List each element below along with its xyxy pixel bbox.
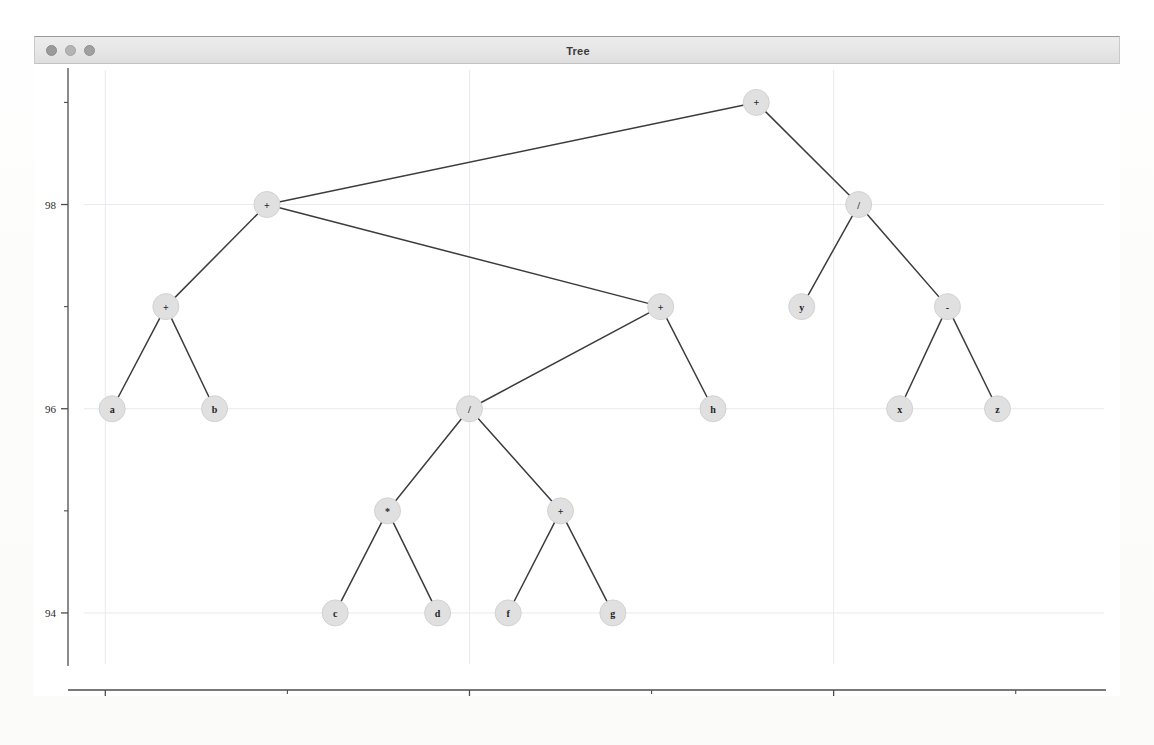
node-label: b	[212, 404, 218, 415]
tree-plot: 9496980816 ++/++y-ab/hxz*+cdfg	[34, 64, 1120, 696]
tree-node-n15[interactable]: c	[322, 600, 348, 626]
tree-edge	[802, 205, 859, 307]
tree-node-n0[interactable]: +	[743, 89, 769, 115]
node-label: y	[799, 302, 804, 313]
node-label: +	[163, 302, 169, 313]
tree-node-n10[interactable]: h	[700, 396, 726, 422]
y-tick-label: 98	[45, 199, 57, 211]
tree-node-n2[interactable]: /	[846, 192, 872, 218]
tree-node-n13[interactable]: *	[375, 498, 401, 524]
tree-edge	[388, 409, 470, 511]
tree-node-n11[interactable]: x	[887, 396, 913, 422]
node-label: c	[333, 608, 338, 619]
node-label: +	[264, 200, 270, 211]
window-title: Tree	[35, 37, 1121, 65]
tree-edge	[469, 307, 660, 409]
tree-edge	[166, 307, 215, 409]
node-label: d	[435, 608, 441, 619]
tree-edge	[661, 307, 713, 409]
tree-node-n16[interactable]: d	[425, 600, 451, 626]
tree-node-n6[interactable]: -	[934, 294, 960, 320]
y-tick-label: 94	[45, 607, 57, 619]
plot-canvas: 9496980816 ++/++y-ab/hxz*+cdfg	[34, 64, 1120, 696]
tree-edge	[388, 511, 438, 613]
node-label: h	[710, 404, 716, 415]
node-label: g	[610, 608, 615, 619]
node-label: +	[558, 506, 564, 517]
node-label: x	[897, 404, 902, 415]
tree-edges	[112, 102, 997, 613]
node-label: -	[946, 302, 949, 313]
tree-node-n9[interactable]: /	[456, 396, 482, 422]
axes	[61, 68, 1106, 696]
tree-node-n18[interactable]: g	[600, 600, 626, 626]
window-titlebar: Tree	[34, 36, 1120, 64]
tree-node-n5[interactable]: y	[789, 294, 815, 320]
node-label: /	[467, 404, 471, 415]
tree-node-n8[interactable]: b	[202, 396, 228, 422]
tree-node-n4[interactable]: +	[648, 294, 674, 320]
tree-nodes[interactable]: ++/++y-ab/hxz*+cdfg	[99, 89, 1010, 626]
tree-edge	[112, 307, 166, 409]
node-label: +	[658, 302, 664, 313]
tree-edge	[508, 511, 560, 613]
tree-edge	[335, 511, 387, 613]
tree-node-n17[interactable]: f	[495, 600, 521, 626]
tree-edge	[756, 102, 858, 204]
tree-node-n3[interactable]: +	[153, 294, 179, 320]
tree-edge	[561, 511, 613, 613]
tree-edge	[267, 102, 756, 204]
tree-node-n1[interactable]: +	[254, 192, 280, 218]
node-label: *	[385, 506, 390, 517]
tree-edge	[267, 205, 661, 307]
tree-edge	[859, 205, 948, 307]
node-label: /	[856, 200, 860, 211]
tree-node-n14[interactable]: +	[548, 498, 574, 524]
y-tick-label: 96	[45, 403, 57, 415]
tree-window: Tree 9496980816 ++/++y-ab/hxz*+cdfg	[34, 36, 1120, 696]
node-label: +	[753, 97, 759, 108]
tree-edge	[469, 409, 560, 511]
node-label: a	[110, 404, 115, 415]
tree-edge	[166, 205, 267, 307]
tree-edge	[947, 307, 997, 409]
tree-edge	[900, 307, 948, 409]
node-label: z	[995, 404, 1000, 415]
tree-node-n7[interactable]: a	[99, 396, 125, 422]
tree-node-n12[interactable]: z	[985, 396, 1011, 422]
